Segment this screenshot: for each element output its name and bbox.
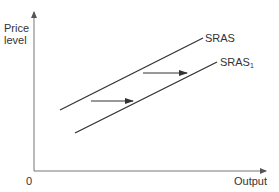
sras-label: SRAS xyxy=(205,32,235,44)
sras1-subscript: 1 xyxy=(250,62,254,69)
sras1-label-text: SRAS xyxy=(220,56,250,68)
sras-label-text: SRAS xyxy=(205,32,235,44)
y-axis-label-line1: Price xyxy=(4,22,36,34)
sras-curve xyxy=(60,38,203,110)
x-axis-label: Output xyxy=(234,175,267,187)
y-axis-label-line2: level xyxy=(4,34,36,46)
origin-label: 0 xyxy=(26,175,32,187)
sras1-label: SRAS1 xyxy=(220,56,254,72)
y-axis-label: Price level xyxy=(4,22,36,46)
sras-shift-diagram xyxy=(0,0,279,192)
